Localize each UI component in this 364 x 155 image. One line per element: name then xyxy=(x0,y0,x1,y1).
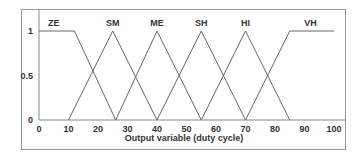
x-tick-label: 90 xyxy=(299,124,309,134)
x-tick-label: 0 xyxy=(36,124,41,134)
label-hi: HI xyxy=(241,18,250,28)
x-tick-label: 20 xyxy=(93,124,103,134)
x-tick-label: 80 xyxy=(270,124,280,134)
label-sm: SM xyxy=(106,18,120,28)
y-tick-label: 1 xyxy=(28,26,33,36)
label-vh: VH xyxy=(304,18,317,28)
label-ze: ZE xyxy=(48,18,60,28)
y-tick-label: 0.5 xyxy=(20,71,33,81)
x-tick-label: 10 xyxy=(63,124,73,134)
y-tick-label: 0 xyxy=(28,115,33,125)
x-axis-label: Output variable (duty cycle) xyxy=(125,133,244,143)
label-me: ME xyxy=(150,18,164,28)
label-sh: SH xyxy=(195,18,208,28)
x-tick-label: 100 xyxy=(326,124,341,134)
membership-function-chart: 010203040506070809010000.51 ZESMMESHHIVH… xyxy=(0,0,364,155)
